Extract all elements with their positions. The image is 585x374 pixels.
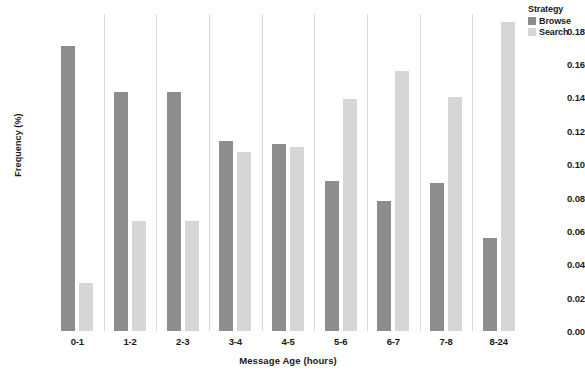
bar-search-5-6[interactable] xyxy=(343,99,357,331)
x-axis-tick-label: 8-24 xyxy=(472,336,525,347)
x-axis-tick-label: 3-4 xyxy=(209,336,262,347)
y-axis-tick-label: 0.08 xyxy=(541,192,585,203)
bar-group xyxy=(51,14,104,331)
bar-browse-3-4[interactable] xyxy=(219,141,233,331)
bar-browse-0-1[interactable] xyxy=(61,46,75,331)
legend: Strategy Browse Search xyxy=(528,4,585,38)
bar-search-1-2[interactable] xyxy=(132,221,146,331)
bar-search-7-8[interactable] xyxy=(448,97,462,331)
bar-group xyxy=(156,14,209,331)
bar-group xyxy=(314,14,367,331)
legend-title: Strategy xyxy=(528,4,585,14)
legend-label-browse: Browse xyxy=(539,16,571,26)
bar-group xyxy=(262,14,315,331)
y-axis-tick-label: 0.00 xyxy=(541,326,585,337)
legend-item-browse[interactable]: Browse xyxy=(528,16,585,26)
legend-swatch-search-icon xyxy=(528,28,536,36)
y-axis-tick-label: 0.10 xyxy=(541,159,585,170)
bar-chart-figure: Frequency (%) 0.000.020.040.060.080.100.… xyxy=(0,0,585,374)
x-axis-tick-label: 5-6 xyxy=(314,336,367,347)
bar-browse-4-5[interactable] xyxy=(272,144,286,331)
bar-search-3-4[interactable] xyxy=(237,152,251,331)
bar-group xyxy=(209,14,262,331)
y-axis-tick-label: 0.06 xyxy=(541,225,585,236)
bar-browse-2-3[interactable] xyxy=(167,92,181,331)
x-axis-tick-label: 4-5 xyxy=(262,336,315,347)
bar-browse-6-7[interactable] xyxy=(377,201,391,331)
bar-browse-1-2[interactable] xyxy=(114,92,128,331)
x-axis-tick-label: 7-8 xyxy=(420,336,473,347)
plot-area xyxy=(51,14,525,331)
x-axis-tick-label: 6-7 xyxy=(367,336,420,347)
y-axis-tick-label: 0.14 xyxy=(541,92,585,103)
legend-item-search[interactable]: Search xyxy=(528,27,585,37)
bar-search-8-24[interactable] xyxy=(501,22,515,331)
x-axis-tick-label: 1-2 xyxy=(104,336,157,347)
bar-browse-7-8[interactable] xyxy=(430,183,444,331)
legend-swatch-browse-icon xyxy=(528,17,536,25)
y-axis-tick-label: 0.12 xyxy=(541,125,585,136)
bar-browse-5-6[interactable] xyxy=(325,181,339,331)
y-axis-tick-label: 0.04 xyxy=(541,259,585,270)
bar-search-0-1[interactable] xyxy=(79,283,93,331)
bar-group xyxy=(367,14,420,331)
y-axis-tick-label: 0.16 xyxy=(541,59,585,70)
bar-browse-8-24[interactable] xyxy=(483,238,497,331)
bar-search-4-5[interactable] xyxy=(290,147,304,331)
legend-label-search: Search xyxy=(539,27,568,37)
bar-search-6-7[interactable] xyxy=(395,71,409,331)
bar-group xyxy=(104,14,157,331)
bar-search-2-3[interactable] xyxy=(185,221,199,331)
x-axis-tick-label: 0-1 xyxy=(51,336,104,347)
bar-group xyxy=(420,14,473,331)
bar-group xyxy=(472,14,525,331)
x-axis-title: Message Age (hours) xyxy=(51,355,525,366)
y-axis-tick-label: 0.02 xyxy=(541,292,585,303)
x-axis-tick-label: 2-3 xyxy=(156,336,209,347)
